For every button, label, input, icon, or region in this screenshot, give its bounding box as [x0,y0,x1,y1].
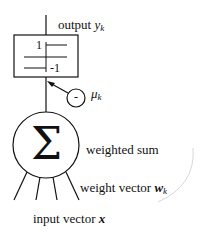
input-var: x [99,211,106,226]
weight-vector-label: weight vector wk [80,181,167,196]
threshold-label: μk [91,87,102,102]
output-label: output yk [58,18,104,33]
weighted-sum-label: weighted sum [86,143,159,156]
weight-var: w [154,180,163,195]
output-sub: k [100,23,104,33]
weight-vector-text: weight vector [80,180,151,195]
input-line-1 [14,172,27,200]
input-vector-label: input vector x [33,212,105,225]
threshold-sign: - [74,91,78,103]
arrow-head-icon [47,81,55,87]
input-line-3 [53,177,57,200]
input-vector-text: input vector [33,211,95,226]
input-line-2 [36,177,40,200]
summation-symbol: Σ [31,122,62,166]
input-line-4 [66,172,79,200]
output-text: output [58,17,91,32]
threshold-sub: k [98,92,102,102]
activation-lower-value: -1 [50,62,60,74]
activation-upper-value: 1 [36,39,42,51]
weight-sub: k [163,186,167,196]
